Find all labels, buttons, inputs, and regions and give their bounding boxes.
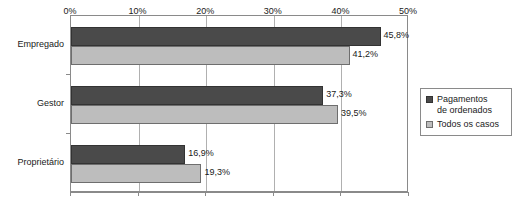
legend-swatch-icon-series-0 [426, 96, 433, 103]
bar-value-label: 19,3% [204, 168, 230, 177]
bar-chart: Pagamentos de ordenados Todos os casos 0… [0, 0, 517, 220]
bar-row [71, 27, 407, 46]
y-tick [66, 133, 70, 134]
bar [71, 145, 185, 164]
legend-label-series-0-line2: de ordenados [437, 105, 492, 115]
x-tick-label: 0% [63, 7, 76, 16]
chart-legend: Pagamentos de ordenados Todos os casos [420, 88, 512, 136]
bar-value-label: 41,2% [353, 50, 379, 59]
x-tick-label: 40% [331, 7, 349, 16]
x-tick-label: 50% [399, 7, 417, 16]
category-label: Empregado [17, 40, 64, 49]
bar [71, 86, 323, 105]
category-label: Proprietário [17, 158, 64, 167]
bar-value-label: 16,9% [188, 149, 214, 158]
bar [71, 46, 350, 65]
bar [71, 164, 201, 183]
bar-value-label: 39,5% [341, 109, 367, 118]
bar [71, 27, 381, 46]
x-tick-label: 20% [196, 7, 214, 16]
x-tick [205, 192, 206, 196]
bar-row [71, 86, 407, 105]
legend-label-series-1: Todos os casos [437, 119, 499, 130]
bar-row [71, 164, 407, 183]
bar [71, 105, 338, 124]
y-tick [66, 74, 70, 75]
x-tick [70, 192, 71, 196]
bar-value-label: 37,3% [326, 90, 352, 99]
bar-row [71, 145, 407, 164]
legend-label-series-0-line1: Pagamentos [437, 94, 488, 104]
legend-item-pagamentos-de-ordenados: Pagamentos de ordenados [426, 94, 507, 116]
bar-value-label: 45,8% [384, 31, 410, 40]
x-tick [408, 192, 409, 196]
x-tick [340, 192, 341, 196]
x-tick-label: 10% [129, 7, 147, 16]
legend-label-series-0: Pagamentos de ordenados [437, 94, 492, 116]
x-tick [273, 192, 274, 196]
plot-area [70, 15, 408, 192]
x-axis [70, 192, 408, 193]
x-tick-label: 30% [264, 7, 282, 16]
legend-label-series-1-line1: Todos os casos [437, 119, 499, 129]
legend-item-todos-os-casos: Todos os casos [426, 119, 507, 130]
x-tick [138, 192, 139, 196]
category-label: Gestor [37, 99, 64, 108]
legend-swatch-icon-series-1 [426, 121, 433, 128]
